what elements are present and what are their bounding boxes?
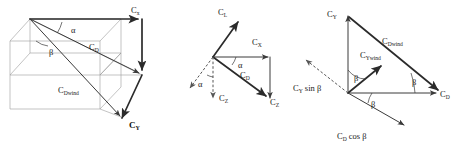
- label-cdwind-right-sub: Dwind: [388, 41, 403, 47]
- label-cy-right: CY: [327, 9, 337, 20]
- panel-left-group: Cx α β CD CDwind CY: [10, 5, 142, 131]
- figure-container: Cx α β CD CDwind CY: [0, 0, 465, 147]
- label-beta-upper-right: β: [354, 73, 358, 83]
- label-cd-right: CD: [440, 89, 450, 100]
- label-cz-right-middle-sub: Z: [276, 102, 280, 108]
- label-cy-sin-beta-right-tail: sin β: [303, 83, 322, 93]
- label-cz-right-middle: CZ: [270, 97, 280, 108]
- label-cx-middle-sub: X: [258, 42, 262, 48]
- vector-cl-middle: [213, 22, 238, 57]
- vector-cy-left: [122, 75, 142, 118]
- label-cd-cos-beta-right-tail: cos β: [347, 131, 367, 141]
- arc-alpha-left: [58, 22, 63, 33]
- label-cd-left: CD: [89, 42, 99, 53]
- label-cd-middle-sub: D: [246, 75, 250, 81]
- label-cdwind-left-sub: Dwind: [64, 90, 79, 96]
- label-alpha-lower-middle: α: [198, 79, 203, 89]
- label-cywind-right: CYwind: [360, 50, 381, 61]
- label-cd-middle: CD: [240, 70, 250, 81]
- label-cx-left-sub: x: [137, 10, 140, 16]
- arc-beta-left: [36, 41, 48, 46]
- label-cdwind-left: CDwind: [58, 85, 79, 96]
- label-cx-middle: CX: [252, 37, 262, 48]
- label-cy-right-sub: Y: [333, 14, 337, 20]
- vector-cd-cos-beta-right: [348, 93, 404, 125]
- label-cl-middle-sub: L: [224, 12, 228, 18]
- arc-alpha-lower-middle: [207, 75, 213, 77]
- arc-alpha-upper-middle: [232, 57, 236, 65]
- label-alpha-upper-middle: α: [238, 60, 243, 70]
- label-cd-right-sub: D: [446, 94, 450, 100]
- panel-middle-group: CL CX CD CZ CZ α α: [190, 7, 280, 108]
- label-cd-left-sub: D: [95, 47, 99, 53]
- label-beta-left: β: [49, 47, 53, 57]
- label-cl-middle: CL: [218, 7, 228, 18]
- label-cywind-right-sub: Ywind: [366, 55, 381, 61]
- label-cy-left: CY: [129, 120, 141, 131]
- label-cz-down-middle: CZ: [219, 93, 229, 104]
- label-alpha-left: α: [71, 25, 76, 35]
- label-beta-right-right: β: [412, 77, 416, 87]
- label-cz-down-middle-sub: Z: [225, 98, 229, 104]
- label-cy-sin-beta-right: CY sin β: [293, 83, 321, 94]
- label-beta-lower-right: β: [371, 99, 375, 109]
- label-cdwind-right: CDwind: [382, 36, 403, 47]
- label-cy-left-sub: Y: [136, 125, 141, 131]
- label-cd-cos-beta-right: CD cos β: [337, 131, 367, 142]
- label-cx-left: Cx: [131, 5, 140, 16]
- panel-right-group: CY CDwind CYwind CD CY sin β CD cos β β …: [293, 9, 450, 142]
- vector-cywind-right: [348, 66, 381, 93]
- vector-diagram-svg: Cx α β CD CDwind CY: [0, 0, 465, 147]
